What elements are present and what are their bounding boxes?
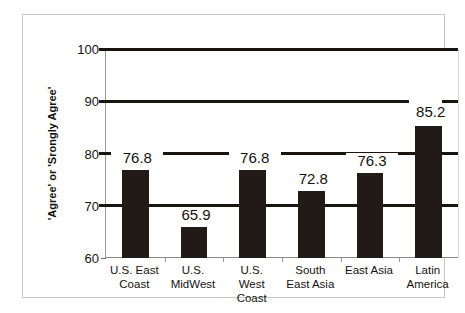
x-axis-tick (223, 258, 224, 262)
x-axis-category-label: LatinAmerica (398, 263, 457, 291)
x-axis-category-label-line: U.S. (222, 263, 281, 277)
y-axis-tick-labels: 60708090100 (63, 49, 99, 258)
chart-outer-frame: 'Agree' or 'Srongly Agree' 60708090100 7… (22, 14, 445, 298)
bar (415, 126, 441, 258)
x-axis-category-label: East Asia (340, 263, 399, 277)
x-axis-tick (399, 258, 400, 262)
y-axis-tick-mark (99, 48, 106, 51)
x-axis-category-labels: U.S. EastCoastU.S.MidWestU.S.WestCoastSo… (105, 263, 459, 311)
bar-value-label: 76.8 (111, 150, 163, 165)
bar-value-label: 76.3 (346, 153, 398, 168)
x-axis-category-label: U.S.MidWest (164, 263, 223, 291)
bar (357, 173, 383, 258)
x-axis-category-label: U.S.WestCoast (222, 263, 281, 305)
y-axis-tick-label: 100 (77, 43, 99, 56)
y-axis-tick-label: 60 (85, 252, 99, 265)
x-axis-tick (165, 258, 166, 262)
bar-value-label: 72.8 (287, 171, 339, 186)
chart-screenshot: 'Agree' or 'Srongly Agree' 60708090100 7… (0, 0, 465, 313)
x-axis-category-label: SouthEast Asia (281, 263, 340, 291)
y-axis-tick-mark (99, 100, 106, 103)
y-axis-tick-mark (99, 204, 106, 207)
gridline-90 (106, 100, 409, 103)
bar (122, 170, 148, 258)
x-axis-tick (341, 258, 342, 262)
x-axis-category-label-line: U.S. East (105, 263, 164, 277)
bar (298, 191, 324, 258)
x-axis-category-label: U.S. EastCoast (105, 263, 164, 291)
x-axis-category-label-line: MidWest (164, 277, 223, 291)
gridline-100 (106, 48, 458, 51)
x-axis-category-label-line: U.S. (164, 263, 223, 277)
x-axis-category-label-line: Coast (222, 291, 281, 305)
y-axis-tick-label: 90 (85, 95, 99, 108)
bar (181, 227, 207, 258)
x-axis-category-label-line: South (281, 263, 340, 277)
y-axis-title: 'Agree' or 'Srongly Agree' (44, 49, 60, 258)
gridline-90-stub (442, 100, 458, 103)
x-axis-category-label-line: Latin (398, 263, 457, 277)
plot-area: 76.865.976.872.876.385.2 (105, 49, 459, 258)
x-axis-category-label-line: West (222, 277, 281, 291)
bar-value-label: 65.9 (170, 207, 222, 222)
y-axis-tick-mark (99, 152, 106, 155)
x-axis-category-label-line: Coast (105, 277, 164, 291)
x-axis-category-label-line: East Asia (281, 277, 340, 291)
x-axis-tick (282, 258, 283, 262)
x-axis-category-label-line: East Asia (340, 263, 399, 277)
bar-value-label: 76.8 (229, 150, 281, 165)
gridline-70 (106, 204, 458, 207)
y-axis-tick-mark (101, 258, 106, 259)
x-axis-category-label-line: America (398, 277, 457, 291)
bar (239, 170, 265, 258)
y-axis-tick-label: 80 (85, 148, 99, 161)
y-axis-tick-label: 70 (85, 200, 99, 213)
bar-value-label: 85.2 (405, 104, 457, 119)
